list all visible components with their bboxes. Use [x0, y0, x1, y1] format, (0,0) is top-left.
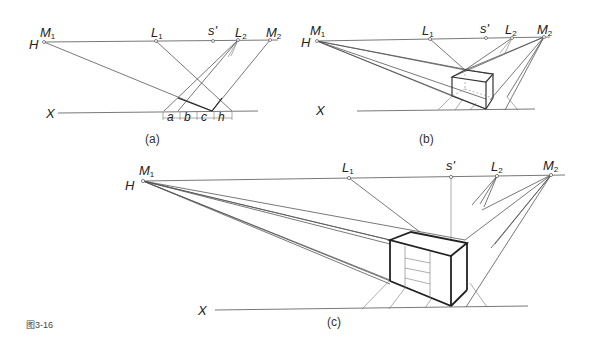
- line-m2: [465, 175, 551, 240]
- box-top: [452, 70, 493, 82]
- measure-label-a: a: [167, 110, 174, 124]
- line-l2b: [178, 40, 238, 111]
- measure-label-b: b: [184, 110, 191, 124]
- label-l1: L1: [151, 25, 163, 41]
- drawer-line: [405, 258, 430, 263]
- line-m1: [143, 181, 390, 244]
- line-m2: [465, 37, 544, 70]
- label-m1: M1: [139, 163, 155, 179]
- hatch: [231, 40, 238, 56]
- line-l1: [430, 39, 465, 70]
- figure-label: 图3-16: [26, 320, 53, 330]
- line-m2: [466, 175, 551, 307]
- point-m1: [43, 41, 46, 44]
- label-s: s': [480, 21, 490, 36]
- drawer-line: [405, 268, 430, 273]
- line-l2: [164, 40, 238, 111]
- label-x: X: [315, 103, 326, 118]
- line-l2: [484, 176, 497, 207]
- point-m2: [549, 173, 552, 176]
- box-edge: [486, 98, 493, 109]
- ground-line: [438, 96, 452, 110]
- hidden-edge: [452, 89, 465, 96]
- line-l2: [480, 176, 497, 204]
- point-s: [449, 175, 452, 178]
- label-x: X: [197, 303, 208, 318]
- measure-label-h: h: [218, 110, 225, 124]
- panel-c: H M1 L1 s' L2 M2 X (c): [125, 158, 565, 329]
- panel-a: H M1 L1 s' L2 M2 X a b c h (a): [29, 23, 282, 146]
- label-l1: L1: [422, 23, 434, 39]
- line-m2: [495, 175, 551, 244]
- point-s: [212, 40, 215, 43]
- panel-b: H M1 L1 s' L2 M2 X (b): [301, 21, 553, 146]
- label-x: X: [45, 106, 56, 121]
- horizon-line: [143, 175, 565, 181]
- label-m2: M2: [537, 22, 553, 38]
- ground-line-x: [215, 306, 528, 310]
- caption-b: (b): [419, 132, 434, 146]
- label-m1: M1: [40, 25, 56, 41]
- label-l2: L2: [491, 159, 503, 175]
- line-m1: [143, 181, 465, 240]
- label-s: s': [446, 158, 456, 173]
- ground-line: [470, 283, 487, 307]
- label-m1: M1: [310, 23, 326, 39]
- cabinet-edge: [390, 281, 451, 306]
- label-s: s': [208, 23, 218, 38]
- cabinet-top: [390, 232, 467, 256]
- line-m2: [482, 175, 551, 210]
- line-m1: [317, 41, 486, 99]
- ground-line: [425, 298, 432, 308]
- line-l1: [349, 178, 420, 232]
- ground-line-x: [357, 109, 535, 111]
- ground-line-x: [58, 111, 258, 113]
- ground-line: [389, 288, 405, 309]
- label-m2: M2: [266, 25, 282, 41]
- line-l2: [472, 176, 497, 205]
- ground-line: [362, 280, 390, 309]
- point-l1: [347, 176, 350, 179]
- label-l2: L2: [235, 25, 247, 41]
- label-h: H: [125, 178, 135, 193]
- line-m1: [143, 181, 390, 284]
- point-m1: [141, 179, 144, 182]
- cabinet-edge: [451, 290, 467, 306]
- line-m2: [505, 37, 544, 110]
- label-m2: M2: [543, 158, 559, 174]
- caption-c: (c): [327, 315, 341, 329]
- drawer-line: [405, 278, 430, 284]
- line-m2: [507, 37, 544, 97]
- label-h: H: [29, 37, 39, 52]
- perspective-diagram: H M1 L1 s' L2 M2 X a b c h (a): [0, 0, 591, 345]
- point-s: [485, 37, 488, 40]
- measure-label-c: c: [201, 110, 207, 124]
- label-l1: L1: [342, 160, 354, 176]
- ground-line: [455, 100, 462, 110]
- caption-a: (a): [145, 132, 160, 146]
- line-m2: [490, 37, 544, 100]
- point-m1: [316, 40, 319, 43]
- label-l2: L2: [505, 22, 517, 38]
